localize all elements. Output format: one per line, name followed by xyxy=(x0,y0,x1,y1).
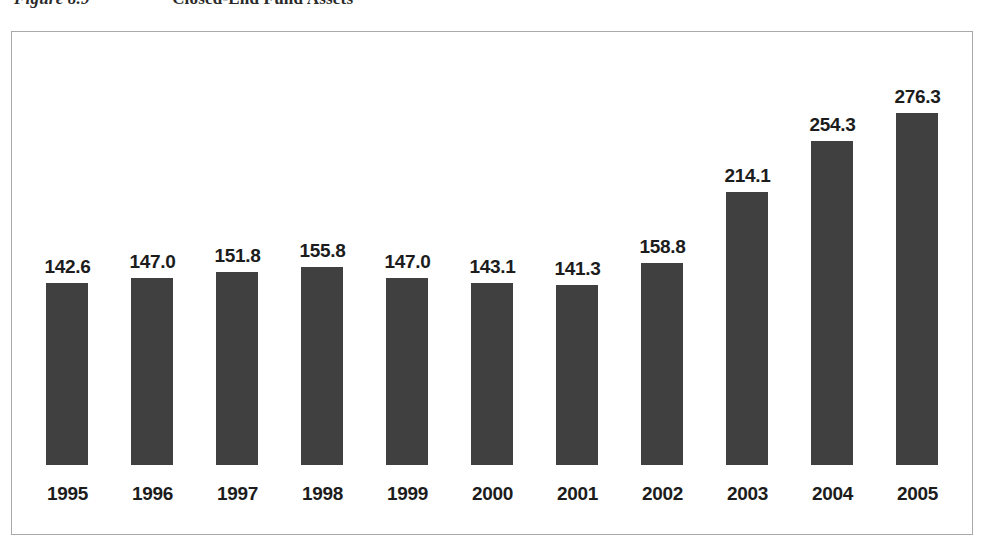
category-axis-label: 1996 xyxy=(110,483,195,505)
bar-rect[interactable] xyxy=(386,278,428,465)
bar-column: 147.01999 xyxy=(365,32,450,534)
category-axis-label: 2000 xyxy=(450,483,535,505)
figure-caption-title: Closed-End Fund Assets xyxy=(94,0,353,9)
bar-column: 254.32004 xyxy=(790,32,875,534)
bar-value-label: 155.8 xyxy=(280,240,365,262)
bar-rect[interactable] xyxy=(301,267,343,465)
category-axis-label: 1995 xyxy=(25,483,110,505)
bar-rect[interactable] xyxy=(216,272,258,465)
figure-caption-number: Figure 8.9 xyxy=(0,0,90,9)
category-axis-label: 2005 xyxy=(875,483,960,505)
bar-column: 147.01996 xyxy=(110,32,195,534)
bar-column: 276.32005 xyxy=(875,32,960,534)
bar-column: 143.12000 xyxy=(450,32,535,534)
bar-value-label: 151.8 xyxy=(195,245,280,267)
bar-column: 151.81997 xyxy=(195,32,280,534)
bar-rect[interactable] xyxy=(726,192,768,465)
category-axis-label: 2003 xyxy=(705,483,790,505)
figure-page: Figure 8.9 Closed-End Fund Assets 142.61… xyxy=(0,0,987,552)
category-axis-label: 2001 xyxy=(535,483,620,505)
bar-rect[interactable] xyxy=(131,278,173,465)
bar-value-label: 214.1 xyxy=(705,165,790,187)
bar-value-label: 147.0 xyxy=(110,251,195,273)
bar-rect[interactable] xyxy=(556,285,598,465)
bar-column: 214.12003 xyxy=(705,32,790,534)
bar-rect[interactable] xyxy=(811,141,853,465)
bar-column: 142.61995 xyxy=(25,32,110,534)
category-axis-label: 2002 xyxy=(620,483,705,505)
bar-rect[interactable] xyxy=(896,113,938,465)
bar-rect[interactable] xyxy=(641,263,683,465)
bar-value-label: 143.1 xyxy=(450,256,535,278)
figure-caption: Figure 8.9 Closed-End Fund Assets xyxy=(0,0,987,11)
bar-column: 158.82002 xyxy=(620,32,705,534)
bar-chart-plot-area: 142.61995147.01996151.81997155.81998147.… xyxy=(12,32,972,534)
category-axis-label: 1999 xyxy=(365,483,450,505)
bar-rect[interactable] xyxy=(471,283,513,465)
bar-value-label: 142.6 xyxy=(25,256,110,278)
category-axis-label: 2004 xyxy=(790,483,875,505)
bar-value-label: 276.3 xyxy=(875,86,960,108)
bar-column: 141.32001 xyxy=(535,32,620,534)
bar-value-label: 147.0 xyxy=(365,251,450,273)
category-axis-label: 1998 xyxy=(280,483,365,505)
bar-value-label: 141.3 xyxy=(535,258,620,280)
bar-value-label: 254.3 xyxy=(790,114,875,136)
bar-rect[interactable] xyxy=(46,283,88,465)
category-axis-label: 1997 xyxy=(195,483,280,505)
chart-frame: 142.61995147.01996151.81997155.81998147.… xyxy=(11,31,973,535)
bar-value-label: 158.8 xyxy=(620,236,705,258)
bar-column: 155.81998 xyxy=(280,32,365,534)
